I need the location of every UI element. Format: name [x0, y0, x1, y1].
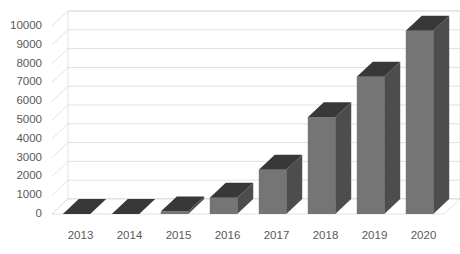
gridline-depth-connector — [52, 49, 68, 64]
x-axis-tick-label: 2019 — [362, 229, 388, 241]
bar-front-face — [259, 170, 286, 214]
x-axis-tick-label: 2014 — [117, 229, 143, 241]
bar[interactable] — [406, 16, 449, 214]
y-axis-tick-label: 4000 — [16, 132, 42, 144]
y-axis-tick-label: 2000 — [16, 169, 42, 181]
y-axis-tick-label: 1000 — [16, 188, 42, 200]
gridline-depth-connector — [52, 105, 68, 120]
bar-front-face — [210, 198, 237, 214]
bar-chart: 0100020003000400050006000700080009000100… — [0, 0, 460, 254]
gridline-depth-connector — [52, 143, 68, 158]
bar-front-face — [308, 117, 335, 214]
y-axis-tick-label: 10000 — [10, 19, 42, 31]
gridline-depth-connector — [52, 124, 68, 139]
x-axis-tick-label: 2015 — [166, 229, 192, 241]
x-axis-tick-label: 2020 — [411, 229, 437, 241]
gridline-depth-connector — [52, 67, 68, 82]
x-axis-tick-label: 2018 — [313, 229, 339, 241]
bar-front-face — [357, 77, 384, 214]
y-axis-tick-label: 9000 — [16, 38, 42, 50]
bar-front-face — [406, 31, 433, 214]
bar[interactable] — [308, 102, 351, 214]
gridline-depth-connector — [52, 86, 68, 101]
gridline-depth-connector — [52, 11, 68, 26]
y-axis-tick-label: 8000 — [16, 57, 42, 69]
chart-canvas: 0100020003000400050006000700080009000100… — [0, 0, 460, 254]
bar-side-face — [335, 102, 351, 214]
bar-side-face — [384, 62, 400, 214]
bar[interactable] — [357, 62, 400, 214]
x-axis-tick-label: 2016 — [215, 229, 241, 241]
gridline-depth-connector — [52, 180, 68, 195]
y-axis-tick-label: 6000 — [16, 94, 42, 106]
y-axis-tick-label: 0 — [36, 207, 42, 219]
gridline-depth-connector — [52, 30, 68, 45]
bar-front-face — [161, 212, 188, 214]
x-axis-tick-label: 2017 — [264, 229, 290, 241]
bar-side-face — [433, 16, 449, 214]
x-axis-tick-label: 2013 — [68, 229, 94, 241]
chart-floor — [52, 199, 460, 214]
gridline-depth-connector — [52, 161, 68, 176]
y-axis-tick-label: 5000 — [16, 113, 42, 125]
y-axis-tick-label: 7000 — [16, 75, 42, 87]
y-axis-tick-label: 3000 — [16, 151, 42, 163]
